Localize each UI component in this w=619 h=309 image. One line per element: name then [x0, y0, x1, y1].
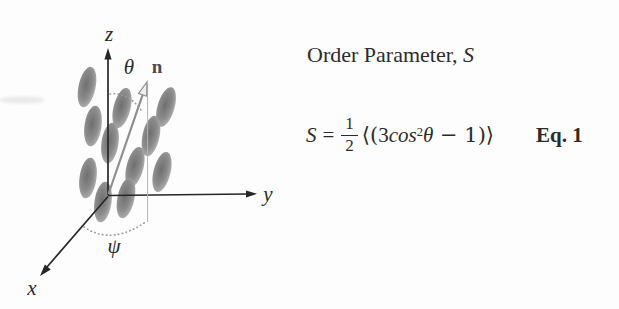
psi-label: ψ	[107, 234, 121, 258]
y-axis-arrowhead	[246, 190, 257, 197]
equation-lhs: S	[306, 123, 317, 148]
director-label: n	[152, 56, 163, 77]
scan-smudge	[0, 97, 45, 104]
fraction-denominator: 2	[345, 136, 354, 156]
molecule-ellipsoid	[74, 65, 99, 109]
x-axis-label: x	[26, 276, 37, 300]
coefficient: 3	[378, 123, 389, 147]
close-bracket: − 1)⟩	[433, 123, 494, 147]
y-axis-label: y	[261, 182, 273, 206]
theta-symbol: θ	[423, 123, 433, 147]
figure-title-text: Order Parameter,	[307, 42, 463, 67]
fraction-numerator: 1	[341, 115, 358, 136]
x-axis-arrowhead	[40, 264, 51, 276]
molecule-ellipsoid	[82, 105, 105, 148]
figure-title-symbol: S	[463, 42, 474, 67]
molecule-ellipsoid	[149, 150, 175, 194]
open-bracket: ⟨(	[362, 123, 378, 147]
equals-sign: =	[323, 123, 335, 148]
z-axis-arrowhead	[104, 48, 111, 60]
molecules-group	[74, 65, 179, 223]
theta-label: θ	[124, 55, 134, 79]
equation-expression: ⟨(3cos2θ − 1)⟩	[362, 123, 494, 148]
director-arrowhead	[139, 82, 147, 96]
x-axis	[47, 197, 108, 268]
equation: S = 1 2 ⟨(3cos2θ − 1)⟩ Eq. 1	[306, 105, 583, 165]
director-diagram: z θ n y x ψ	[0, 0, 300, 309]
order-parameter-figure: z θ n y x ψ Order Parameter, S S = 1 2 ⟨…	[0, 0, 619, 309]
molecule-ellipsoid	[77, 157, 100, 200]
figure-title: Order Parameter, S	[307, 42, 474, 68]
fraction: 1 2	[341, 115, 358, 155]
equation-tag: Eq. 1	[536, 123, 583, 148]
cos-function: cos	[389, 123, 417, 147]
z-axis-label: z	[104, 22, 113, 46]
